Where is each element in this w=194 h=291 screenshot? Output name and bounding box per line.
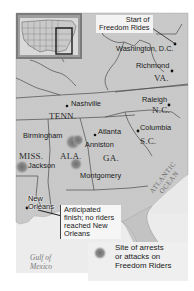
city-label-atlanta: Atlanta [98, 128, 121, 135]
legend-label: Site of arrests or attacks on Freedom Ri… [115, 244, 172, 271]
state-label-nc: N.C. [152, 106, 170, 115]
attack-site-anniston [72, 134, 84, 146]
gulf-of-mexico-label: Gulf of Mexico [30, 253, 52, 272]
map-legend: Site of arrests or attacks on Freedom Ri… [92, 243, 188, 281]
start-callout-line2: Freedom Rides [99, 24, 150, 32]
gulf-label-line2: Mexico [30, 262, 52, 271]
city-label-raleigh: Raleigh [142, 96, 167, 103]
legend-line3: Freedom Riders [115, 262, 172, 271]
finish-callout-line4: Orleans [64, 230, 119, 238]
city-label-washington: Washington, D.C. [116, 45, 174, 52]
city-label-nashville: Nashville [71, 100, 101, 107]
state-label-ala: ALA. [60, 152, 82, 161]
attack-site-jackson [15, 160, 29, 174]
city-label-new-orleans-line2: Orleans [28, 203, 54, 211]
gulf-label-line1: Gulf of [30, 253, 52, 262]
city-label-montgomery: Montgomery [80, 172, 121, 179]
state-label-miss: MISS. [19, 152, 43, 161]
us-locator-inset [16, 13, 82, 59]
state-label-tenn: TENN. [49, 112, 76, 121]
city-label-birmingham: Birmingham [23, 132, 62, 139]
state-label-sc: S.C. [140, 137, 156, 146]
city-label-new-orleans: New Orleans [28, 195, 54, 211]
city-label-anniston: Anniston [85, 141, 114, 148]
city-label-columbia: Columbia [140, 124, 171, 131]
city-label-richmond: Richmond [136, 62, 169, 69]
state-label-ga: GA. [103, 154, 119, 163]
start-callout: Start of Freedom Rides [96, 15, 153, 33]
finish-callout: Anticipated finish; no riders reached Ne… [60, 205, 121, 239]
state-label-va: VA. [154, 74, 169, 83]
city-label-jackson: Jackson [28, 162, 55, 169]
